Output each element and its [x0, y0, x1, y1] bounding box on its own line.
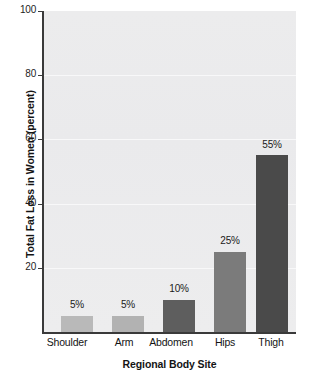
x-tick-label-thigh: Thigh [238, 336, 304, 348]
gridline-60 [43, 139, 296, 140]
y-tick-label-100: 100 [0, 4, 36, 15]
y-axis-line [42, 11, 44, 333]
x-axis-title: Regional Body Site [43, 358, 296, 370]
y-tick-mark-40 [38, 204, 43, 205]
bar-abdomen [163, 300, 195, 332]
bar-value-abdomen: 10% [169, 283, 188, 294]
bar-hips [214, 252, 246, 332]
bar-shoulder [61, 316, 93, 332]
bar-arm [112, 316, 144, 332]
y-tick-mark-80 [38, 75, 43, 76]
y-tick-label-60: 60 [0, 132, 36, 143]
y-tick-mark-100 [38, 11, 43, 12]
y-tick-label-20: 20 [0, 261, 36, 272]
y-axis-title: Total Fat Loss in Women (percent) [24, 59, 36, 289]
x-axis-line [42, 332, 296, 334]
y-tick-label-40: 40 [0, 197, 36, 208]
bar-value-arm: 5% [121, 299, 135, 310]
gridline-80 [43, 75, 296, 76]
y-tick-label-80: 80 [0, 68, 36, 79]
y-tick-mark-20 [38, 268, 43, 269]
bar-value-hips: 25% [220, 235, 239, 246]
plot-area: 5% 5% 10% 25% 55% [43, 11, 296, 332]
bar-chart: Total Fat Loss in Women (percent) 5% 5% … [0, 0, 309, 378]
bar-thigh [256, 155, 288, 332]
bar-value-thigh: 55% [262, 139, 281, 150]
bar-value-shoulder: 5% [70, 299, 84, 310]
y-tick-mark-60 [38, 139, 43, 140]
